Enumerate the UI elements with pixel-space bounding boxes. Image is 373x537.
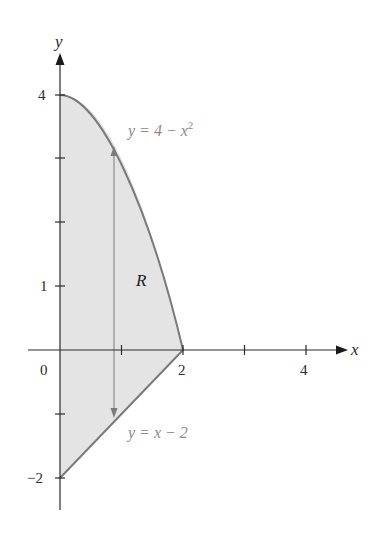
x-tick-label-2: 2	[178, 362, 186, 378]
lower-curve-label: y = x − 2	[126, 424, 188, 442]
upper-curve-label: y = 4 − x2	[126, 119, 193, 140]
y-axis-arrow-icon	[56, 53, 65, 65]
region-diagram: y x 4 1 −2 0 2 4 y = 4 − x2 y = x − 2 R	[0, 0, 373, 537]
y-tick-label-4: 4	[38, 87, 46, 103]
y-tick-label-neg2: −2	[27, 470, 43, 486]
x-axis-arrow-icon	[336, 346, 348, 355]
x-axis-label: x	[350, 340, 359, 359]
y-axis-label: y	[53, 32, 63, 51]
region-label: R	[135, 271, 147, 290]
x-tick-label-4: 4	[300, 362, 308, 378]
y-tick-label-1: 1	[40, 278, 48, 294]
origin-label: 0	[40, 362, 48, 378]
region-r-fill	[60, 95, 183, 478]
